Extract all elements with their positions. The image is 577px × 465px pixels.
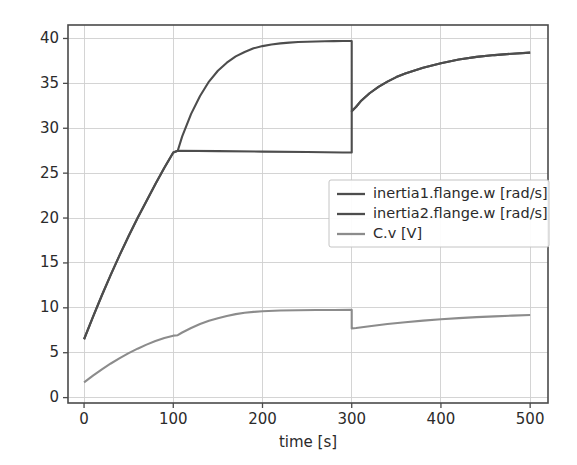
y-tick-label: 15 — [40, 253, 59, 271]
x-tick-label: 500 — [516, 410, 545, 428]
y-tick-label: 40 — [40, 29, 59, 47]
x-tick-label: 200 — [248, 410, 277, 428]
y-tick-label: 0 — [49, 388, 59, 406]
x-tick-label: 0 — [79, 410, 89, 428]
line-chart: 0100200300400500 0510152025303540 time [… — [0, 0, 577, 465]
y-tick-label: 35 — [40, 74, 59, 92]
chart-figure: 0100200300400500 0510152025303540 time [… — [0, 0, 577, 465]
legend-label-1: inertia1.flange.w [rad/s] — [373, 185, 548, 201]
x-tick-label: 400 — [427, 410, 456, 428]
x-tick-label: 300 — [337, 410, 366, 428]
chart-legend[interactable]: inertia1.flange.w [rad/s]inertia2.flange… — [329, 180, 549, 247]
x-axis-label: time [s] — [279, 433, 337, 451]
y-tick-label: 25 — [40, 164, 59, 182]
y-tick-label: 30 — [40, 119, 59, 137]
legend-label-3: C.v [V] — [373, 225, 422, 241]
legend-label-2: inertia2.flange.w [rad/s] — [373, 205, 548, 221]
x-tick-label: 100 — [159, 410, 188, 428]
y-tick-label: 5 — [49, 343, 59, 361]
y-tick-label: 20 — [40, 209, 59, 227]
y-tick-label: 10 — [40, 298, 59, 316]
